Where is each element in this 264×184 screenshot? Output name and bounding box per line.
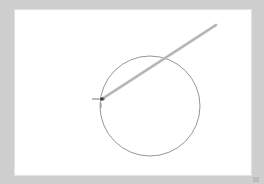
- rubberband-line-inner: [102, 25, 216, 99]
- anchor-point-handle[interactable]: [101, 98, 104, 101]
- canvas-drawing-layer: [0, 0, 264, 184]
- resize-grip-icon[interactable]: [253, 177, 259, 182]
- circle-shape[interactable]: [100, 56, 200, 156]
